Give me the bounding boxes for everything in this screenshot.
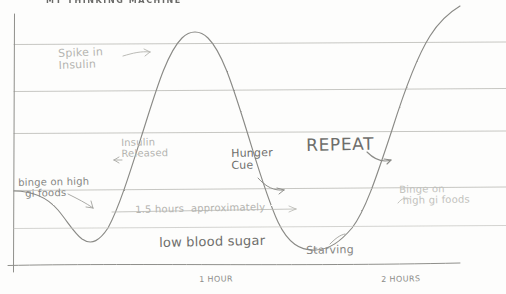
gridline-3 bbox=[14, 131, 506, 134]
x-axis bbox=[8, 263, 460, 266]
annotation-low-blood-sugar: low blood sugar bbox=[159, 234, 265, 250]
gridline-1 bbox=[14, 42, 506, 45]
gridline-2 bbox=[14, 89, 506, 92]
x-tick-1-hour: 1 HOUR bbox=[199, 274, 233, 284]
spike-in-insulin-arrow bbox=[123, 49, 150, 56]
annotation-spike-in-insulin: Spike in Insulin bbox=[58, 46, 104, 71]
x-tick-2-hours: 2 HOURS bbox=[381, 274, 420, 284]
ruled-line-lower bbox=[14, 226, 506, 229]
annotation-starving: Starving bbox=[306, 244, 354, 257]
annotation-hunger-cue: Hunger Cue bbox=[231, 147, 273, 171]
repeat-arrow bbox=[367, 152, 391, 164]
annotation-repeat: REPEAT bbox=[306, 136, 374, 155]
sketch-canvas: MY THINKING MACHINE bbox=[0, 0, 506, 294]
annotation-insulin-released: Insulin Released bbox=[121, 137, 168, 159]
y-axis bbox=[14, 14, 15, 272]
annotation-binge-right: Binge on high gi foods bbox=[399, 184, 470, 206]
annotation-binge-left: binge on high gi foods bbox=[18, 177, 90, 199]
